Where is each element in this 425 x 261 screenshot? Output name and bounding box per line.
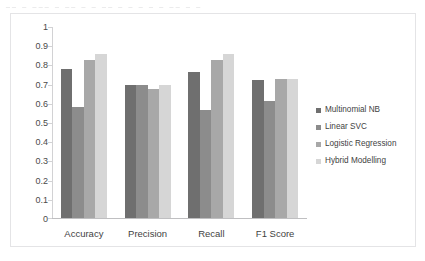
bar: [84, 60, 96, 218]
legend-label: Linear SVC: [325, 123, 367, 131]
bar: [95, 54, 107, 218]
bar: [72, 107, 84, 218]
y-tick-label: 0.3: [18, 157, 48, 166]
y-tick-label: 0.4: [18, 138, 48, 147]
bar-group: [243, 26, 307, 218]
bar: [200, 110, 212, 218]
bar: [287, 79, 299, 218]
legend-swatch-icon: [316, 142, 321, 147]
legend-label: Hybrid Modelling: [325, 157, 386, 165]
bars-layer: [52, 27, 307, 219]
x-tick-label: Recall: [180, 229, 244, 239]
y-tick-label: 0.2: [18, 176, 48, 185]
bar: [61, 69, 73, 218]
legend-item: Multinomial NB: [316, 102, 414, 119]
legend-item: Hybrid Modelling: [316, 153, 414, 170]
bar: [223, 54, 235, 218]
bar: [275, 79, 287, 218]
y-tick-label: 0.7: [18, 80, 48, 89]
x-tick-label: Accuracy: [52, 229, 116, 239]
bar: [188, 72, 200, 218]
bar-group: [180, 26, 244, 218]
scan-artifact-text: __ _ ___ _ __ _ _ __ _ _ _ _ _ __ _ _: [0, 0, 425, 12]
chart-frame: 00.10.20.30.40.50.60.70.80.91 AccuracyPr…: [10, 13, 416, 247]
legend-swatch-icon: [316, 108, 321, 113]
chart-legend: Multinomial NBLinear SVCLogistic Regress…: [316, 102, 414, 170]
y-tick-label: 0.9: [18, 42, 48, 51]
legend-item: Linear SVC: [316, 119, 414, 136]
legend-label: Multinomial NB: [325, 106, 380, 114]
bar: [252, 80, 264, 218]
y-tick-label: 0.5: [18, 119, 48, 128]
bar-group: [116, 26, 180, 218]
legend-label: Logistic Regression: [325, 140, 396, 148]
bar: [264, 101, 276, 218]
y-tick-label: 0.6: [18, 99, 48, 108]
y-tick-label: 0: [18, 215, 48, 224]
y-tick-label: 0.1: [18, 195, 48, 204]
x-axis-labels: AccuracyPrecisionRecallF1 Score: [52, 222, 307, 238]
x-tick-label: F1 Score: [243, 229, 307, 239]
bar: [211, 60, 223, 218]
x-tick-label: Precision: [116, 229, 180, 239]
legend-item: Logistic Regression: [316, 136, 414, 153]
bar: [148, 89, 160, 218]
plot-area: [52, 27, 307, 219]
bar: [159, 85, 171, 218]
y-tick-label: 0.8: [18, 61, 48, 70]
bar: [136, 85, 148, 218]
legend-swatch-icon: [316, 125, 321, 130]
legend-swatch-icon: [316, 159, 321, 164]
bar-group: [52, 26, 116, 218]
bar: [125, 85, 137, 218]
y-tick-label: 1: [18, 23, 48, 32]
y-axis-labels: 00.10.20.30.40.50.60.70.80.91: [15, 27, 48, 219]
